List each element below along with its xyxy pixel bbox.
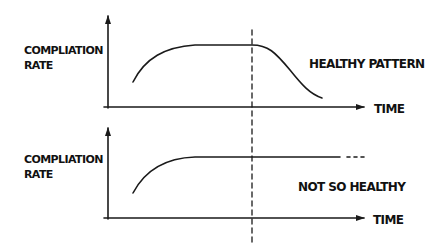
bottom-x-axis-label: TIME <box>373 213 404 227</box>
diagram-canvas: COMPLIATION RATE HEALTHY PATTERN TIME CO… <box>0 0 447 247</box>
top-curve-healthy <box>133 45 322 98</box>
top-panel: COMPLIATION RATE HEALTHY PATTERN TIME <box>24 16 424 116</box>
bottom-annotation-not-so-healthy: NOT SO HEALTHY <box>298 180 406 194</box>
top-annotation-healthy-pattern: HEALTHY PATTERN <box>309 57 424 71</box>
top-y-axis-label-line1: COMPLIATION <box>24 44 103 57</box>
bottom-y-axis-label-line1: COMPLIATION <box>24 153 103 166</box>
top-y-axis-label-line2: RATE <box>24 59 53 72</box>
top-x-axis-label: TIME <box>374 102 405 116</box>
bottom-panel: COMPLIATION RATE NOT SO HEALTHY TIME <box>24 128 406 227</box>
bottom-y-axis-label-line2: RATE <box>24 168 53 181</box>
